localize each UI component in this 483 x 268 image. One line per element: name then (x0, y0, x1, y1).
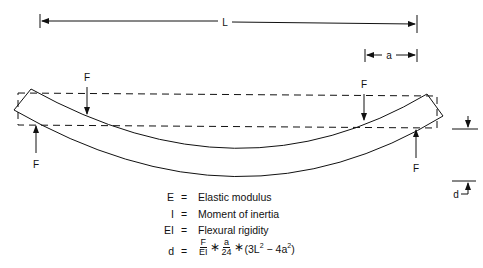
deflection-dimension: d (452, 116, 478, 200)
legend-definition: Moment of inertia (198, 206, 279, 222)
fraction-a-over-24: a 24 (222, 238, 232, 257)
force-label: F (361, 79, 367, 90)
deflection-formula: F EI ∗ a 24 ∗ (3L2 − 4a2) (198, 238, 295, 257)
force-right-support: F (413, 130, 419, 174)
force-right-load: F (361, 79, 367, 120)
legend-definition: Elastic modulus (198, 189, 272, 205)
legend-equals: = (181, 206, 187, 222)
offset-dimension: a (365, 49, 417, 62)
force-label: F (413, 163, 419, 174)
legend-symbol: I (150, 206, 174, 222)
multiply-symbol: ∗ (234, 239, 244, 255)
legend-equals: = (181, 222, 187, 238)
deflection-label: d (453, 189, 459, 200)
formula-paren-term: (3L2 − 4a2) (245, 238, 295, 257)
legend-equals: = (181, 189, 187, 205)
force-label: F (33, 159, 39, 170)
formula-lhs: d (150, 243, 174, 259)
span-label: L (222, 17, 228, 28)
formula-equals: = (181, 243, 187, 259)
deformed-beam (14, 89, 443, 177)
offset-label: a (386, 50, 392, 61)
undeformed-beam-outline (18, 93, 437, 128)
legend-symbol: EI (150, 222, 174, 238)
force-label: F (84, 72, 90, 83)
multiply-symbol: ∗ (210, 239, 220, 255)
force-left-support: F (33, 126, 39, 170)
span-dimension: L (40, 14, 417, 33)
legend-symbol: E (150, 189, 174, 205)
legend-definition: Flexural rigidity (198, 222, 269, 238)
fraction-f-over-ei: F EI (199, 238, 208, 257)
